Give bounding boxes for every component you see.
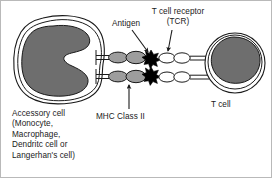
tcr-upper-lobe-proximal <box>174 53 190 63</box>
t-cell-group <box>205 33 265 93</box>
t-cell-receptor-label: T cell receptor (TCR) <box>147 7 209 28</box>
tcr-upper-lobe-distal <box>159 53 175 63</box>
antigen-arrow <box>132 30 148 52</box>
mhc-lower-lobe-distal <box>126 70 146 82</box>
tcr-lower-lobe-distal <box>159 72 175 82</box>
accessory-cell-group <box>14 16 105 104</box>
t-cell-label: T cell <box>211 100 231 110</box>
antigen-star-upper <box>142 50 160 68</box>
tcr-lower-lobe-proximal <box>174 72 190 82</box>
antigen-star-lower <box>142 67 160 85</box>
tcr-arrow <box>168 30 172 51</box>
immunology-diagram-figure: Antigen T cell receptor (TCR) MHC Class … <box>0 0 272 178</box>
mhc-upper-lobe-proximal <box>109 52 128 63</box>
t-cell-nucleus <box>211 37 260 83</box>
mhc-lower-lobe-proximal <box>109 71 128 82</box>
antigen-label: Antigen <box>112 19 140 29</box>
accessory-cell-label: Accessory cell (Monocyte, Macrophage, De… <box>12 109 75 161</box>
mhc-class-ii-group <box>96 50 146 84</box>
mhc-class-ii-label: MHC Class II <box>96 112 145 122</box>
t-cell-receptor-group <box>159 53 209 82</box>
